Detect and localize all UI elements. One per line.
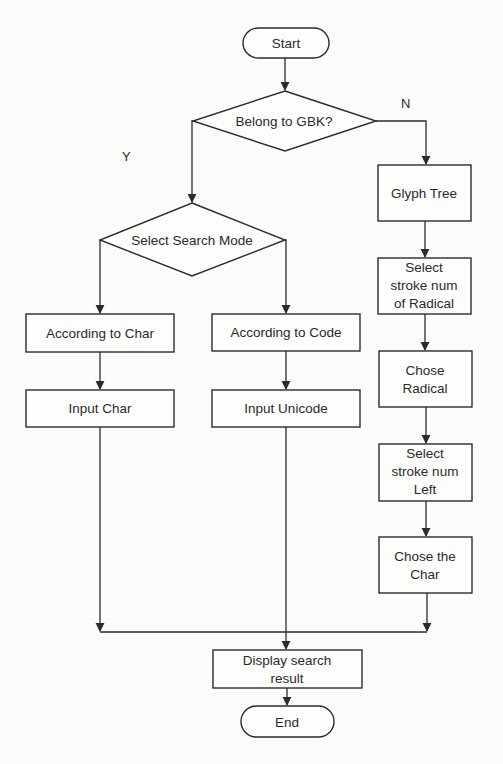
node-start-label: Start bbox=[272, 36, 301, 51]
node-chose-radical-line1: Chose bbox=[405, 363, 444, 378]
node-select-stroke-radical-line3: of Radical bbox=[394, 296, 454, 311]
edge-gbk-yes bbox=[192, 121, 193, 202]
node-start: Start bbox=[243, 28, 329, 58]
node-select-search-mode-label: Select Search Mode bbox=[131, 233, 253, 248]
node-according-code-label: According to Code bbox=[230, 325, 341, 340]
node-end-label: End bbox=[275, 715, 299, 730]
node-select-search-mode: Select Search Mode bbox=[100, 203, 285, 276]
node-display-result-line1: Display search bbox=[243, 653, 332, 668]
node-end: End bbox=[241, 706, 334, 737]
node-input-char-label: Input Char bbox=[68, 401, 132, 416]
node-select-stroke-radical: Select stroke num of Radical bbox=[378, 258, 471, 314]
node-belong-gbk: Belong to GBK? bbox=[193, 91, 376, 151]
node-display-result: Display search result bbox=[213, 650, 362, 688]
node-select-stroke-left: Select stroke num Left bbox=[379, 444, 472, 501]
node-chose-char: Chose the Char bbox=[379, 537, 472, 593]
node-belong-gbk-label: Belong to GBK? bbox=[236, 114, 333, 129]
node-select-stroke-left-line2: stroke num bbox=[392, 464, 459, 479]
flowchart-canvas: N Y Start Belong to GBK? Select Search M… bbox=[0, 0, 503, 764]
node-chose-radical-line2: Radical bbox=[402, 381, 447, 396]
node-input-unicode: Input Unicode bbox=[212, 390, 360, 427]
node-according-char: According to Char bbox=[26, 314, 174, 352]
edge-mode-to-code bbox=[285, 240, 286, 313]
node-select-stroke-radical-line2: stroke num bbox=[391, 278, 458, 293]
node-display-result-line2: result bbox=[270, 671, 303, 686]
node-glyph-tree: Glyph Tree bbox=[378, 165, 471, 221]
node-input-unicode-label: Input Unicode bbox=[244, 401, 327, 416]
node-chose-radical: Chose Radical bbox=[379, 351, 472, 407]
node-select-stroke-left-line3: Left bbox=[414, 482, 437, 497]
node-select-stroke-radical-line1: Select bbox=[405, 260, 443, 275]
edge-gbk-no bbox=[376, 121, 426, 164]
node-according-char-label: According to Char bbox=[46, 326, 155, 341]
branch-label-yes: Y bbox=[122, 149, 131, 164]
node-chose-char-line2: Char bbox=[410, 567, 440, 582]
node-according-code: According to Code bbox=[212, 314, 360, 351]
node-glyph-tree-label: Glyph Tree bbox=[391, 186, 457, 201]
node-input-char: Input Char bbox=[26, 390, 174, 427]
branch-label-no: N bbox=[401, 96, 410, 111]
node-select-stroke-left-line1: Select bbox=[406, 446, 444, 461]
edges bbox=[100, 58, 427, 705]
node-chose-char-line1: Chose the bbox=[394, 549, 456, 564]
